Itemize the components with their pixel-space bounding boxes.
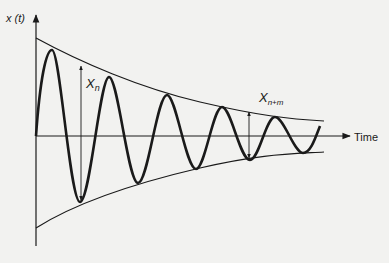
amplitude-label-xnm: Xn+m xyxy=(258,90,284,107)
xnm-subscript: n+m xyxy=(268,98,284,107)
upper-envelope xyxy=(36,38,324,121)
damped-wave-curve xyxy=(36,50,320,202)
lower-envelope xyxy=(36,152,324,228)
xn-subscript: n xyxy=(95,83,100,93)
x-axis-label: Time xyxy=(354,131,378,143)
damped-oscillation-diagram: x (t) Time Xn Xn+m xyxy=(0,0,389,263)
y-axis-label: x (t) xyxy=(5,12,25,24)
amplitude-label-xn: Xn xyxy=(85,76,100,93)
